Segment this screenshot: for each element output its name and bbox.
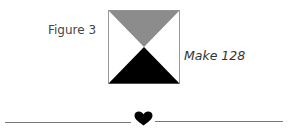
quantity-note: Make 128 [184,48,245,63]
heart-icon [134,111,153,126]
divider-line-right [155,121,283,122]
quilt-block-diagram [108,10,180,84]
figure-caption: Figure 3 [48,23,96,37]
divider-line-left [5,122,131,123]
